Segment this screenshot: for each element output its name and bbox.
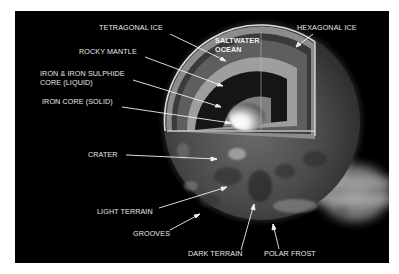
label-iron-sulphide-core: IRON & IRON SULPHIDE CORE (LIQUID) (40, 70, 125, 87)
label-iron-core: IRON CORE (SOLID) (42, 98, 113, 107)
label-rocky-mantle: ROCKY MANTLE (79, 48, 137, 57)
label-tetragonal-ice: TETRAGONAL ICE (99, 24, 163, 33)
label-crater: CRATER (88, 151, 118, 160)
label-polar-frost: POLAR FROST (264, 250, 316, 259)
cutaway-illustration (15, 11, 389, 263)
label-hexagonal-ice: HEXAGONAL ICE (297, 24, 357, 33)
label-dark-terrain: DARK TERRAIN (188, 250, 243, 259)
label-saltwater-ocean: SALTWATER OCEAN (215, 37, 260, 54)
diagram-panel: TETRAGONAL ICE ROCKY MANTLE IRON & IRON … (15, 11, 389, 263)
label-saltwater-ocean-line2: OCEAN (215, 46, 260, 55)
label-light-terrain: LIGHT TERRAIN (97, 208, 153, 217)
label-iron-sulphide-core-line2: CORE (LIQUID) (40, 79, 125, 88)
label-grooves: GROOVES (133, 230, 170, 239)
